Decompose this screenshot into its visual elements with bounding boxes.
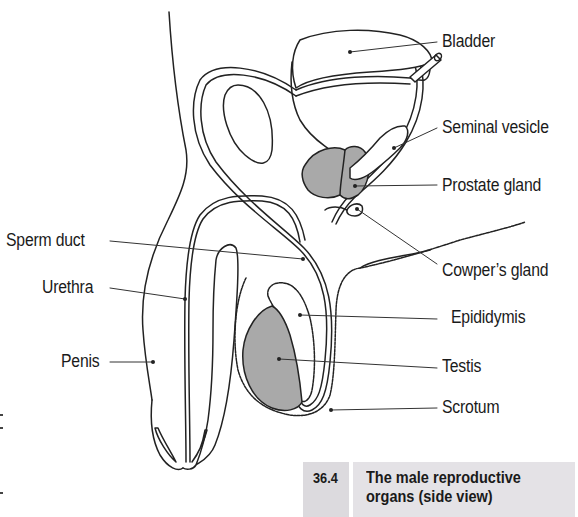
label-bladder: Bladder bbox=[442, 31, 495, 52]
label-testis: Testis bbox=[442, 356, 481, 377]
penis-outline bbox=[151, 400, 183, 469]
page-edge-mark bbox=[0, 427, 3, 429]
page-edge-mark bbox=[0, 414, 3, 416]
figure-caption: 36.4 The male reproductive organs (side … bbox=[303, 462, 575, 517]
figure-number-box: 36.4 bbox=[303, 462, 353, 517]
caption-line-2: organs (side view) bbox=[366, 487, 577, 506]
page-edge-mark bbox=[0, 492, 3, 494]
label-prostate-gland: Prostate gland bbox=[442, 175, 541, 196]
label-cowpers-gland: Cowper’s gland bbox=[442, 260, 548, 281]
cowpers-gland bbox=[347, 204, 363, 216]
label-sperm-duct: Sperm duct bbox=[6, 230, 85, 251]
label-penis: Penis bbox=[61, 351, 100, 372]
body-outline bbox=[142, 12, 186, 400]
figure-caption-text: The male reproductive organs (side view) bbox=[366, 468, 577, 506]
figure-number: 36.4 bbox=[313, 469, 338, 486]
bladder bbox=[293, 30, 432, 88]
label-scrotum: Scrotum bbox=[442, 397, 499, 418]
label-seminal-vesicle: Seminal vesicle bbox=[442, 117, 549, 138]
label-epididymis: Epididymis bbox=[451, 307, 525, 328]
label-urethra: Urethra bbox=[42, 277, 93, 298]
male-reproductive-diagram bbox=[0, 0, 578, 517]
caption-line-1: The male reproductive bbox=[366, 468, 577, 487]
pubic-bone bbox=[224, 85, 273, 163]
